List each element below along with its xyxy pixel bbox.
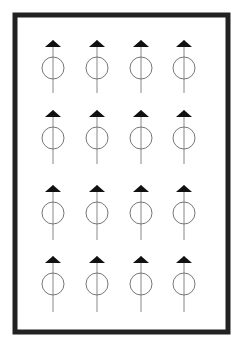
symbol-r1-c1 [42,40,64,93]
symbol-grid [42,40,195,312]
triangle-cap-icon [45,110,61,117]
symbol-r1-c3 [130,40,152,93]
triangle-cap-icon [45,256,61,263]
symbol-r1-c4 [173,40,195,93]
symbol-r4-c4 [173,256,195,312]
symbol-r3-c1 [42,185,64,240]
symbol-r4-c3 [130,256,152,312]
symbol-r2-c1 [42,110,64,164]
triangle-cap-icon [89,256,105,263]
symbol-r2-c3 [130,110,152,164]
diagram-canvas [0,0,240,346]
diagram-frame [15,15,228,332]
symbol-r4-c1 [42,256,64,312]
triangle-cap-icon [176,40,192,47]
symbol-r2-c4 [173,110,195,164]
triangle-cap-icon [45,185,61,192]
triangle-cap-icon [133,40,149,47]
symbol-r3-c2 [86,185,108,240]
triangle-cap-icon [89,110,105,117]
triangle-cap-icon [176,185,192,192]
triangle-cap-icon [89,185,105,192]
symbol-r3-c3 [130,185,152,240]
triangle-cap-icon [176,256,192,263]
triangle-cap-icon [133,185,149,192]
symbol-r2-c2 [86,110,108,164]
triangle-cap-icon [133,110,149,117]
symbol-r1-c2 [86,40,108,93]
symbol-r4-c2 [86,256,108,312]
triangle-cap-icon [133,256,149,263]
symbol-r3-c4 [173,185,195,240]
triangle-cap-icon [45,40,61,47]
triangle-cap-icon [89,40,105,47]
triangle-cap-icon [176,110,192,117]
